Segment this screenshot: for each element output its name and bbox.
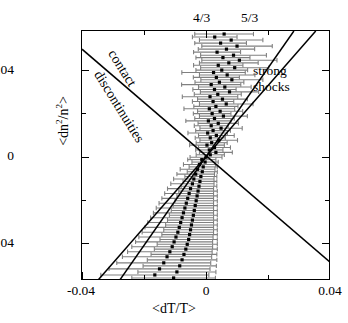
data-point [176,231,179,234]
y-tick-major-upper [82,70,89,71]
data-point [219,110,222,113]
data-point [208,95,211,98]
data-point [178,226,181,229]
data-point [201,170,204,173]
data-point [192,214,195,217]
data-point [211,129,214,132]
x-tick-top-zero [206,31,207,38]
y-tick-label-zero: 0 [0,149,14,163]
data-point [215,76,218,79]
y-tick-major-lower [82,243,89,244]
data-point [223,85,226,88]
x-tick-label-left: -0.04 [46,284,116,298]
data-point [232,54,235,57]
data-point [221,56,224,59]
data-point [162,261,165,264]
data-point [207,119,210,122]
data-point [211,112,214,115]
marker-group [153,32,241,279]
data-point [213,117,216,120]
data-point [202,165,205,168]
data-point [178,264,181,267]
data-point [191,182,194,185]
data-point [196,189,199,192]
figure: 0.04 0 -0.04 -0.04 0 0.04 <dn2/n2> <dT/T… [0,0,348,323]
data-point [172,276,175,279]
x-tick-minor-2 [268,275,269,279]
data-point [221,98,224,101]
y-tick-right-minor-2 [325,200,329,201]
data-point [233,66,236,69]
y-tick-label-lower: -0.04 [0,236,14,250]
data-point [194,204,197,207]
x-tick-label-right: 0.04 [295,284,348,298]
data-point [215,134,218,137]
data-point [188,192,191,195]
data-point [158,267,161,270]
data-point [174,235,177,238]
data-point [197,185,200,188]
data-point [238,59,241,62]
x-tick-major-right [329,272,330,279]
data-point [168,250,171,253]
plot-area [81,30,330,280]
data-point [226,73,229,76]
x-tick-major-zero [206,272,207,279]
x-tick-top-minor-2 [268,31,269,35]
y-tick-right-zero [322,157,329,158]
data-point [182,211,185,214]
x-tick-label-zero: 0 [171,284,241,298]
y-tick-right-lower [322,243,329,244]
data-point [205,144,208,147]
data-point [185,202,188,205]
annotation-ratio-5-3: 5/3 [241,10,258,25]
data-layer [82,31,330,280]
x-tick-minor-1 [144,275,145,279]
data-point [180,216,183,219]
data-point [182,253,185,256]
reference-line-group [82,31,330,280]
data-point [186,197,189,200]
data-point [188,233,191,236]
data-point [195,199,198,202]
data-point [219,127,222,130]
data-point [199,175,202,178]
data-point [214,105,217,108]
data-point [203,160,206,163]
data-point [209,136,212,139]
y-tick-minor-2 [82,200,86,201]
y-tick-minor-1 [82,113,86,114]
data-point [206,131,209,134]
data-point [186,243,189,246]
data-point [218,81,221,84]
reference-line [82,49,330,263]
data-point [187,238,190,241]
data-point [198,180,201,183]
data-point [210,83,213,86]
data-point [220,69,223,72]
data-point [165,255,168,258]
y-tick-right-upper [322,70,329,71]
data-point [228,90,231,93]
data-point [208,107,211,110]
data-point [175,270,178,273]
data-point [223,32,226,35]
data-point [217,122,220,125]
data-point [230,38,233,41]
data-point [191,219,194,222]
data-point [219,41,222,44]
data-point [210,141,213,144]
data-point [212,71,215,74]
data-point [153,273,156,276]
x-tick-top-minor-1 [144,31,145,35]
data-point [222,114,225,117]
data-point [214,151,217,154]
y-tick-label-upper: 0.04 [0,63,14,77]
y-tick-major-zero [82,157,89,158]
errorbar-group [101,32,277,280]
x-axis-title: <dT/T> [0,301,348,317]
data-point [213,35,216,38]
data-point [171,245,174,248]
data-point [225,48,228,51]
data-point [189,228,192,231]
